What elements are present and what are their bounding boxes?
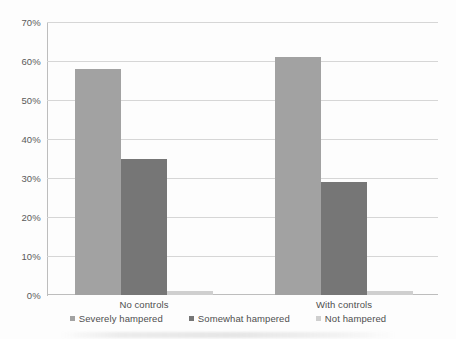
bar-severely-hampered-with-controls[interactable] xyxy=(275,57,321,295)
legend-label: Severely hampered xyxy=(79,313,163,324)
y-tick-label: 10% xyxy=(0,251,41,262)
bar-somewhat-hampered-no-controls[interactable] xyxy=(121,159,167,296)
y-tick-label: 20% xyxy=(0,212,41,223)
legend-label: Not hampered xyxy=(325,313,386,324)
x-category-label-with-controls: With controls xyxy=(284,299,404,310)
y-tick-label: 70% xyxy=(0,17,41,28)
y-tick-label: 60% xyxy=(0,56,41,67)
bar-severely-hampered-no-controls[interactable] xyxy=(75,69,121,295)
legend-swatch-icon xyxy=(316,316,321,321)
bar-somewhat-hampered-with-controls[interactable] xyxy=(321,182,367,295)
legend-swatch-icon xyxy=(70,316,75,321)
legend-label: Somewhat hampered xyxy=(198,313,290,324)
legend-item-somewhat-hampered[interactable]: Somewhat hampered xyxy=(189,313,290,324)
gridline xyxy=(47,61,438,62)
chart-legend: Severely hampered Somewhat hampered Not … xyxy=(0,313,456,324)
y-tick-label: 40% xyxy=(0,134,41,145)
scan-artifact xyxy=(60,332,396,338)
gridline xyxy=(47,22,438,23)
y-tick-label: 30% xyxy=(0,173,41,184)
x-category-label-no-controls: No controls xyxy=(84,299,204,310)
bar-not-hampered-with-controls[interactable] xyxy=(367,291,413,295)
y-tick-label: 0% xyxy=(0,290,41,301)
bar-chart: 0%10%20%30%40%50%60%70% Severely hampere… xyxy=(0,0,456,339)
legend-item-severely-hampered[interactable]: Severely hampered xyxy=(70,313,163,324)
y-tick-label: 50% xyxy=(0,95,41,106)
legend-item-not-hampered[interactable]: Not hampered xyxy=(316,313,386,324)
plot-area: 0%10%20%30%40%50%60%70% xyxy=(47,22,438,295)
bar-not-hampered-no-controls[interactable] xyxy=(167,291,213,295)
legend-swatch-icon xyxy=(189,316,194,321)
